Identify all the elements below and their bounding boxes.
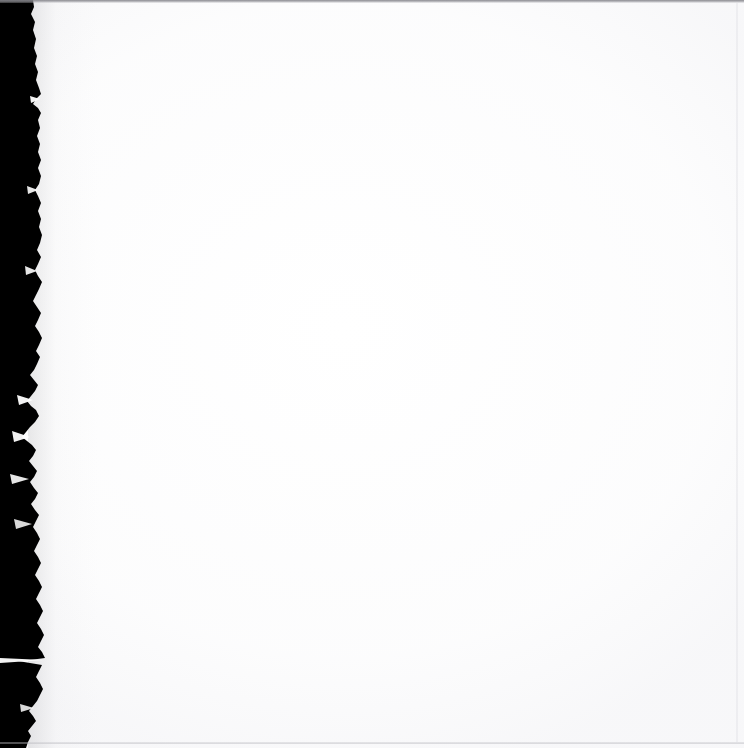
torn-paper-edge [0,0,45,748]
scanner-gutter [0,0,744,748]
scanned-page [0,0,744,748]
